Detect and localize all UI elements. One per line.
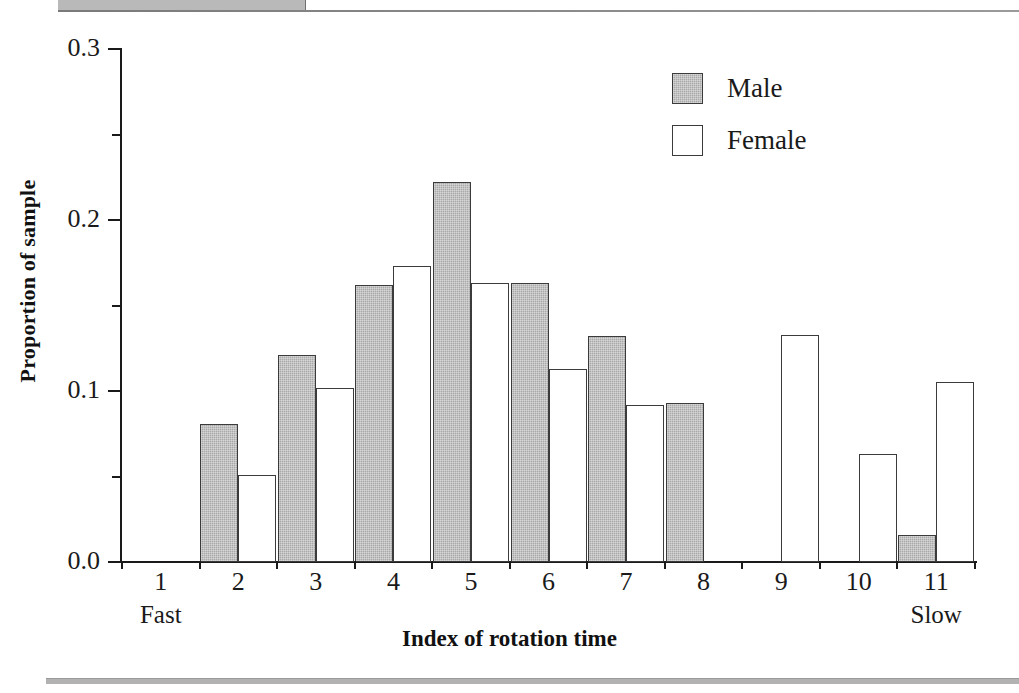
legend-item-female: Female [672, 114, 806, 166]
y-axis-tick-minor [112, 305, 122, 307]
x-axis-endcap-slow: Slow [876, 601, 996, 629]
x-axis-tick-label: 11 [891, 568, 981, 595]
x-axis-tick-label: 3 [271, 568, 361, 595]
bar-female-11 [936, 382, 974, 562]
bar-female-2 [238, 475, 276, 562]
x-axis-tick-label: 9 [736, 568, 826, 595]
x-axis-tick-label: 8 [659, 568, 749, 595]
chart-legend: Male Female [672, 62, 806, 166]
legend-label-male: Male [727, 73, 782, 104]
y-axis-tick-major [108, 561, 122, 563]
x-axis-tick-label: 7 [581, 568, 671, 595]
y-axis-tick-major [108, 219, 122, 221]
legend-item-male: Male [672, 62, 806, 114]
x-axis-tick-label: 5 [426, 568, 516, 595]
bar-female-3 [316, 388, 354, 562]
bar-female-5 [471, 283, 509, 562]
bar-female-7 [626, 405, 664, 562]
y-axis-tick-minor [112, 134, 122, 136]
y-axis-tick-minor [112, 476, 122, 478]
bar-male-4 [355, 285, 393, 562]
legend-swatch-male-icon [672, 73, 703, 104]
bar-male-7 [588, 336, 626, 562]
bar-female-9 [781, 335, 819, 562]
bar-male-8 [666, 403, 704, 562]
x-axis-tick-label: 1 [116, 568, 206, 595]
y-axis-title: Proportion of sample [15, 151, 41, 411]
x-axis-tick-label: 2 [193, 568, 283, 595]
x-axis-tick-label: 4 [348, 568, 438, 595]
x-axis-endcap-fast: Fast [101, 601, 221, 629]
x-axis-title: Index of rotation time [0, 626, 1019, 652]
bar-male-11 [898, 535, 936, 562]
bar-male-5 [433, 182, 471, 562]
bar-male-2 [200, 424, 238, 563]
y-axis-tick-major [108, 48, 122, 50]
y-axis-tick-major [108, 390, 122, 392]
bar-female-6 [549, 369, 587, 562]
legend-label-female: Female [727, 125, 806, 156]
bar-female-10 [859, 454, 897, 562]
legend-swatch-female-icon [672, 125, 703, 156]
grouped-bar-chart: 0.00.10.20.3 Proportion of sample 123456… [0, 0, 1019, 693]
bar-female-4 [393, 266, 431, 562]
y-axis-tick-label: 0.3 [0, 35, 100, 61]
plot-area [122, 49, 975, 562]
x-axis-tick-label: 10 [814, 568, 904, 595]
y-axis-tick-label: 0.0 [0, 548, 100, 574]
x-axis-tick-label: 6 [504, 568, 594, 595]
bar-male-6 [511, 283, 549, 562]
bar-male-3 [278, 355, 316, 562]
bottom-divider-rule [46, 678, 1019, 684]
